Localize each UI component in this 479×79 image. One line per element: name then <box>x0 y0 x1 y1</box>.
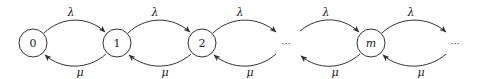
rate-label-mu: μ <box>331 66 338 79</box>
rate-label-mu: μ <box>76 66 83 79</box>
edge-0-to-1 <box>44 20 105 33</box>
state-label: m <box>366 37 376 50</box>
state-node-m: m <box>357 29 385 57</box>
rate-label-lambda: λ <box>151 6 159 19</box>
ellipsis-gap-1: ··· <box>281 38 291 49</box>
edge-2-to-gap1 <box>213 20 276 33</box>
state-node-2: 2 <box>188 29 216 57</box>
edge-2-to-1 <box>129 54 191 66</box>
rate-label-lambda: λ <box>236 6 244 19</box>
state-label: 2 <box>199 37 206 50</box>
rate-label-lambda: λ <box>407 6 415 19</box>
edge-1-to-0 <box>45 54 106 66</box>
birth-death-diagram: λ λ λ λ λ μ μ μ μ μ 0 1 2 m ··· ··· <box>0 0 479 79</box>
state-label: 1 <box>114 37 121 50</box>
edge-gap2-to-m <box>383 54 446 66</box>
rate-label-lambda: λ <box>322 6 330 19</box>
edge-gap1-to-2 <box>214 54 276 66</box>
edge-m-to-gap1 <box>301 54 360 66</box>
state-label: 0 <box>30 37 37 50</box>
edge-gap1-to-m <box>300 20 359 32</box>
edge-1-to-2 <box>128 20 190 33</box>
rate-label-mu: μ <box>417 66 424 79</box>
rate-label-mu: μ <box>246 66 253 79</box>
rate-label-mu: μ <box>161 66 168 79</box>
ellipsis-gap-2: ··· <box>450 38 460 49</box>
edge-m-to-gap2 <box>382 20 446 33</box>
state-node-0: 0 <box>19 29 47 57</box>
state-node-1: 1 <box>103 29 131 57</box>
rate-label-lambda: λ <box>67 6 75 19</box>
